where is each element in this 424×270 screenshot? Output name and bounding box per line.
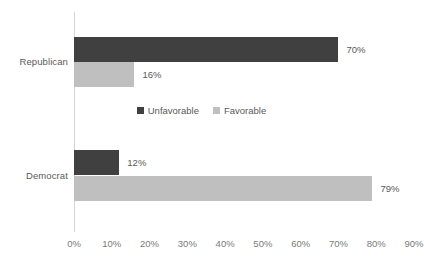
x-tick-label: 40% (216, 238, 235, 249)
category-label-democrat: Democrat (0, 170, 68, 181)
x-tick-label: 50% (253, 238, 272, 249)
chart-legend: Unfavorable Favorable (0, 105, 403, 116)
value-label-democrat-unfavorable: 12% (119, 150, 146, 175)
legend-item-unfavorable[interactable]: Unfavorable (137, 105, 199, 116)
value-label-republican-unfavorable: 70% (338, 37, 365, 62)
legend-swatch-icon-unfavorable (137, 107, 144, 114)
x-tick-label: 90% (404, 238, 423, 249)
bar-republican-favorable[interactable] (74, 62, 134, 87)
bar-democrat-favorable[interactable] (74, 176, 372, 201)
legend-item-favorable[interactable]: Favorable (213, 105, 266, 116)
x-tick-label: 0% (67, 238, 81, 249)
bar-democrat-unfavorable[interactable] (74, 150, 119, 175)
legend-label-unfavorable: Unfavorable (148, 105, 199, 116)
x-tick-label: 70% (329, 238, 348, 249)
value-label-democrat-favorable: 79% (372, 176, 399, 201)
x-tick-label: 60% (291, 238, 310, 249)
x-tick-label: 10% (102, 238, 121, 249)
plot-area: 70% 16% 12% 79% (74, 12, 400, 232)
x-tick-label: 80% (367, 238, 386, 249)
x-tick-label: 20% (140, 238, 159, 249)
x-axis: 0%10%20%30%40%50%60%70%80%90% (74, 238, 414, 252)
value-label-republican-favorable: 16% (134, 62, 161, 87)
bar-republican-unfavorable[interactable] (74, 37, 338, 62)
legend-label-favorable: Favorable (224, 105, 266, 116)
x-tick-label: 30% (178, 238, 197, 249)
legend-swatch-icon-favorable (213, 107, 220, 114)
category-label-republican: Republican (0, 56, 68, 67)
